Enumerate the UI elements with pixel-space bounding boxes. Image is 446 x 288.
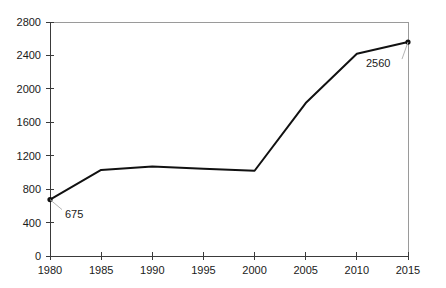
x-tick-label: 1985 — [89, 264, 113, 276]
y-tick-label: 1600 — [17, 116, 41, 128]
y-tick-label: 400 — [23, 217, 41, 229]
data-label-leader-line — [50, 200, 62, 210]
series-marker-group — [47, 39, 410, 202]
data-label-leader-line — [402, 42, 408, 59]
chart-canvas: 040080012001600200024002800 198019851990… — [0, 0, 446, 288]
y-tick-label: 2000 — [17, 83, 41, 95]
data-point-label: 675 — [65, 208, 83, 220]
data-point-label: 2560 — [366, 57, 390, 69]
data-label-group: 6752560 — [50, 42, 408, 220]
y-axis: 040080012001600200024002800 — [17, 16, 54, 262]
x-tick-label: 1995 — [191, 264, 215, 276]
y-tick-label: 0 — [35, 250, 41, 262]
y-tick-label: 2400 — [17, 49, 41, 61]
x-tick-label: 2005 — [293, 264, 317, 276]
series-line-0 — [50, 42, 408, 200]
x-axis: 19801985199019952000200520102015 — [38, 252, 420, 276]
y-tick-group: 040080012001600200024002800 — [17, 16, 54, 262]
x-tick-label: 2000 — [242, 264, 266, 276]
y-tick-label: 800 — [23, 183, 41, 195]
series-group — [47, 39, 410, 202]
x-tick-label: 1980 — [38, 264, 62, 276]
y-tick-label: 2800 — [17, 16, 41, 28]
x-tick-label: 1990 — [140, 264, 164, 276]
x-tick-label: 2015 — [396, 264, 420, 276]
x-tick-label: 2010 — [345, 264, 369, 276]
y-tick-label: 1200 — [17, 150, 41, 162]
line-chart: 040080012001600200024002800 198019851990… — [0, 0, 446, 288]
